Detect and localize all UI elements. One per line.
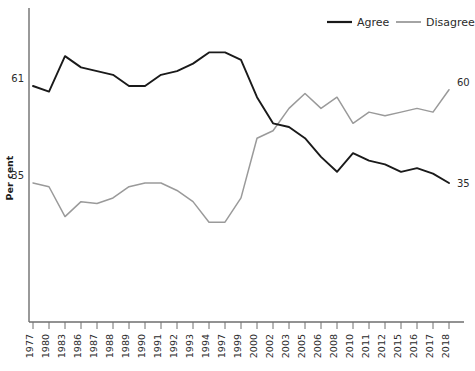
data-label-disagree-start: 35 [11, 170, 24, 181]
x-axis-tick-label: 1994 [200, 334, 211, 358]
legend: Agree Disagree [327, 16, 475, 29]
x-axis-tick-label: 1991 [152, 334, 163, 358]
x-axis-tick-label: 1993 [184, 334, 195, 358]
x-axis-tick-label: 1992 [168, 334, 179, 358]
x-axis-tick-label: 1990 [136, 334, 147, 358]
x-axis-tick-label: 1999 [232, 334, 243, 358]
x-axis-tick-label: 1977 [24, 334, 35, 358]
x-axis-tick-label: 2011 [360, 334, 371, 358]
x-axis-tick-label: 1987 [88, 334, 99, 358]
x-axis-tick-label: 1983 [56, 334, 67, 358]
x-axis-tick-label: 1980 [40, 334, 51, 358]
x-axis-tick-label: 2002 [264, 334, 275, 358]
x-axis-tick-label: 2012 [376, 334, 387, 358]
x-axis-tick-label: 2018 [440, 334, 451, 358]
x-axis-tick-label: 1997 [216, 334, 227, 358]
x-axis-ticks [33, 322, 449, 329]
data-label-agree-end: 35 [457, 178, 470, 189]
x-axis-tick-label: 2016 [408, 334, 419, 358]
series-line-disagree [33, 90, 449, 222]
x-axis-tick-label: 2008 [328, 334, 339, 358]
series-line-agree [33, 52, 449, 183]
legend-label-disagree: Disagree [426, 16, 475, 29]
x-axis-tick-label: 2005 [296, 334, 307, 358]
x-axis-tick-label: 1988 [104, 334, 115, 358]
x-axis-tick-label: 2010 [344, 334, 355, 358]
x-axis-tick-label: 2006 [312, 334, 323, 358]
x-axis-tick-label: 2015 [392, 334, 403, 358]
chart-container: Agree Disagree Per cent 1977198019831986… [0, 0, 475, 371]
line-chart: Agree Disagree Per cent 1977198019831986… [0, 0, 475, 371]
x-axis-tick-labels: 1977198019831986198719881989199019911992… [24, 334, 451, 358]
x-axis-tick-label: 1986 [72, 334, 83, 358]
x-axis-tick-label: 2003 [280, 334, 291, 358]
data-label-disagree-end: 60 [457, 77, 470, 88]
x-axis-tick-label: 2017 [424, 334, 435, 358]
x-axis-tick-label: 2000 [248, 334, 259, 358]
x-axis-tick-label: 1989 [120, 334, 131, 358]
data-label-agree-start: 61 [11, 73, 24, 84]
legend-label-agree: Agree [357, 16, 390, 29]
